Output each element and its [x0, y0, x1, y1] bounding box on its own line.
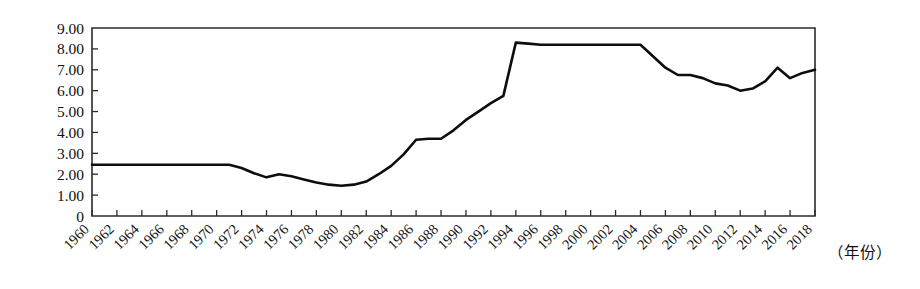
x-tick-label: 2010 [684, 221, 716, 253]
x-axis-caption: （年份） [828, 244, 892, 261]
x-tick-label: 1972 [210, 221, 242, 253]
y-tick-label: 1.00 [57, 187, 84, 204]
y-axis-ticks [92, 49, 98, 195]
x-tick-label: 2012 [709, 221, 741, 253]
x-tick-label: 1998 [534, 221, 566, 253]
series-line-path [92, 43, 815, 186]
x-tick-label: 1980 [310, 221, 342, 253]
x-tick-label: 2000 [559, 221, 591, 253]
x-tick-label: 1982 [335, 221, 367, 253]
x-tick-label: 1994 [484, 220, 516, 252]
x-tick-label: 1984 [359, 220, 391, 252]
x-tick-label: 2002 [584, 221, 616, 253]
x-tick-label: 1966 [135, 221, 167, 253]
y-axis-tick-labels: 9.008.007.006.005.004.003.002.001.000 [57, 20, 84, 225]
x-tick-label: 1960 [60, 221, 92, 253]
y-tick-label: 4.00 [57, 124, 84, 141]
data-series [92, 43, 815, 186]
x-tick-label: 1968 [160, 221, 192, 253]
x-axis-ticks [92, 210, 815, 216]
x-axis-tick-labels: 1960196219641966196819701972197419761978… [60, 220, 815, 252]
x-tick-label: 1974 [235, 220, 267, 252]
x-tick-label: 2014 [733, 220, 765, 252]
x-tick-label: 1986 [384, 221, 416, 253]
x-tick-label: 2006 [634, 221, 666, 253]
x-tick-label: 2008 [659, 221, 691, 253]
x-tick-label: 1990 [434, 221, 466, 253]
y-tick-label: 9.00 [57, 20, 84, 37]
x-tick-label: 2018 [783, 221, 815, 253]
y-tick-label: 3.00 [57, 145, 84, 162]
line-chart-figure: 9.008.007.006.005.004.003.002.001.000 19… [0, 0, 920, 289]
x-tick-label: 2004 [609, 220, 641, 252]
x-tick-label: 1962 [85, 221, 117, 253]
plot-frame [92, 28, 815, 216]
x-tick-label: 1978 [285, 221, 317, 253]
x-tick-label: 2016 [758, 221, 790, 253]
y-tick-label: 8.00 [57, 40, 84, 57]
x-tick-label: 1992 [459, 221, 491, 253]
y-tick-label: 2.00 [57, 166, 84, 183]
plot-border [92, 28, 815, 216]
y-tick-label: 7.00 [57, 61, 84, 78]
x-tick-label: 1976 [260, 221, 292, 253]
y-tick-label: 6.00 [57, 82, 84, 99]
x-tick-label: 1964 [110, 220, 142, 252]
y-tick-label: 5.00 [57, 103, 84, 120]
x-tick-label: 1996 [509, 221, 541, 253]
x-tick-label: 1988 [409, 221, 441, 253]
x-tick-label: 1970 [185, 221, 217, 253]
